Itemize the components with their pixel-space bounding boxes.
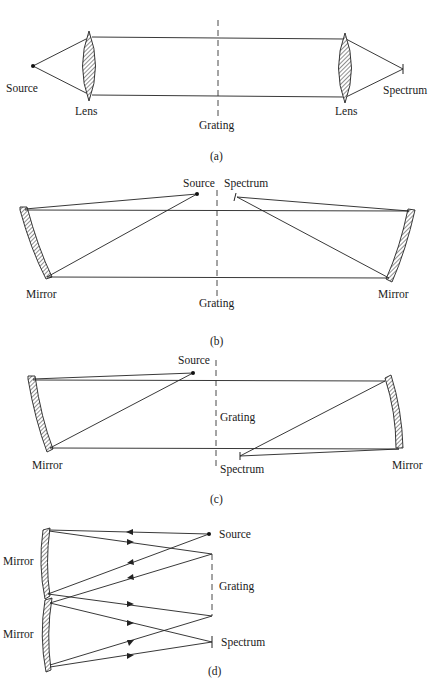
arrow-icon: [127, 620, 134, 626]
ray-right-mirror-bottom-to-spectrum: [240, 449, 399, 456]
ray-source-to-left-mirror: [33, 373, 193, 379]
panel-a: Source Lens Grating Lens Spectrum (a): [6, 20, 427, 163]
ray-source-to-left-mirror-bottom: [50, 373, 193, 448]
label-source: Source: [219, 528, 251, 540]
source-point-icon: [31, 64, 35, 68]
caption-b: (b): [210, 335, 224, 348]
lens-right-icon: [339, 33, 352, 103]
ray-bottom-beam: [50, 448, 399, 449]
label-grating: Grating: [199, 297, 234, 310]
mirror-right-icon: [386, 209, 415, 282]
mirror-right-icon: [385, 375, 403, 448]
label-grating: Grating: [199, 119, 234, 132]
label-mirror-right: Mirror: [378, 288, 409, 300]
caption-a: (a): [210, 150, 223, 163]
source-point-icon: [195, 192, 199, 196]
label-source: Source: [178, 354, 210, 366]
label-spectrum: Spectrum: [224, 177, 268, 190]
label-source: Source: [183, 177, 215, 189]
label-spectrum: Spectrum: [383, 84, 427, 97]
arrow-icon: [127, 539, 134, 545]
ray-source-to-lens-top: [33, 37, 90, 66]
label-spectrum: Spectrum: [221, 636, 265, 649]
ray-right-mirror-to-spectrum: [237, 197, 389, 278]
label-mirror-right: Mirror: [392, 459, 423, 471]
ray-bottom-beam: [47, 277, 389, 278]
panel-c: Source Grating Mirror Spectrum Mirror (c…: [28, 354, 423, 506]
panel-d: Source Mirror Grating Mirror Spectrum (d…: [3, 528, 265, 678]
caption-d: (d): [208, 665, 222, 678]
ray-top-beam: [33, 380, 385, 381]
spectrum-plane-icon: [234, 193, 236, 201]
source-point-icon: [207, 532, 211, 536]
label-grating: Grating: [219, 580, 254, 593]
mirror-lower-icon: [42, 598, 52, 672]
mirror-left-icon: [20, 207, 52, 279]
ray-source-to-left-mirror: [25, 194, 197, 209]
label-lens-right: Lens: [335, 105, 358, 117]
spectrometer-diagram: Source Lens Grating Lens Spectrum (a) So…: [0, 0, 438, 688]
arrow-icon: [127, 601, 134, 607]
ray-source-to-left-mirror-bottom: [47, 194, 197, 277]
label-spectrum: Spectrum: [220, 463, 264, 476]
panel-b: Source Spectrum Mirror Grating Mirror (b…: [20, 177, 415, 348]
label-mirror-upper: Mirror: [3, 555, 34, 567]
label-mirror-left: Mirror: [26, 288, 57, 300]
ray-lens-to-spectrum-top: [346, 39, 403, 69]
caption-c: (c): [210, 493, 223, 506]
lens-left-icon: [83, 31, 96, 101]
arrow-icon: [126, 529, 133, 535]
label-mirror-lower: Mirror: [3, 628, 34, 640]
label-grating: Grating: [220, 411, 255, 424]
collimated-beam-top: [92, 37, 344, 39]
arrow-icon: [127, 640, 134, 646]
ray-right-mirror-to-spectrum: [240, 381, 385, 456]
mirror-upper-icon: [41, 528, 50, 599]
ray-source-to-lens-bottom: [33, 66, 90, 95]
label-mirror-left: Mirror: [32, 459, 63, 471]
source-point-icon: [191, 371, 195, 375]
label-source: Source: [6, 82, 38, 94]
ray-right-mirror-top-to-spectrum: [237, 197, 409, 211]
label-lens-left: Lens: [75, 105, 98, 117]
mirror-left-icon: [28, 376, 53, 452]
